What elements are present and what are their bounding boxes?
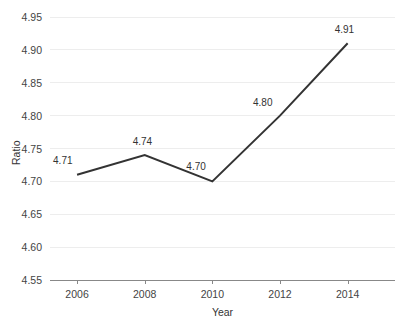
data-series-line — [77, 43, 348, 181]
x-axis-tick-label: 2014 — [325, 288, 371, 300]
y-axis-tick-label: 4.95 — [8, 11, 42, 23]
y-axis-tick-label: 4.70 — [8, 175, 42, 187]
data-point-label: 4.71 — [53, 155, 72, 166]
y-axis-tick-label: 4.85 — [8, 77, 42, 89]
data-point-label: 4.70 — [186, 161, 205, 172]
x-axis-tick-label: 2010 — [189, 288, 235, 300]
data-point-label: 4.91 — [335, 24, 354, 35]
line-chart: 4.954.904.854.804.754.704.654.604.55 200… — [0, 0, 408, 318]
y-axis-tick-label: 4.60 — [8, 241, 42, 253]
x-axis-tick-label: 2006 — [54, 288, 100, 300]
y-axis-tick-label: 4.65 — [8, 208, 42, 220]
x-tick-marks — [78, 280, 349, 284]
y-axis-tick-label: 4.90 — [8, 44, 42, 56]
x-axis-tick-label: 2008 — [122, 288, 168, 300]
x-axis-tick-label: 2012 — [257, 288, 303, 300]
y-axis-tick-label: 4.55 — [8, 274, 42, 286]
gridlines — [50, 17, 395, 247]
data-point-label: 4.74 — [133, 136, 152, 147]
y-axis-tick-label: 4.80 — [8, 110, 42, 122]
data-point-label: 4.80 — [253, 97, 272, 108]
y-axis-title: Ratio — [10, 140, 22, 165]
x-axis-title: Year — [173, 306, 273, 318]
